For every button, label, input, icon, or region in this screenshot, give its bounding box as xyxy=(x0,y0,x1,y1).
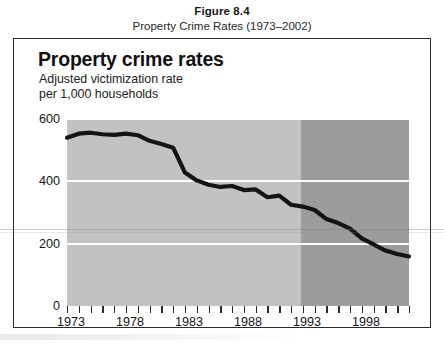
x-tick-label-1973: 1973 xyxy=(49,315,93,329)
series-line-chart xyxy=(67,119,409,306)
y-tick-label-0: 0 xyxy=(14,300,60,312)
x-tick-1985 xyxy=(209,306,210,313)
x-tick-1994 xyxy=(315,306,316,313)
x-tick-1982 xyxy=(173,306,174,313)
x-tick-2000 xyxy=(385,306,386,313)
x-tick-1980 xyxy=(150,306,151,313)
x-tick-1974 xyxy=(79,306,80,313)
x-tick-label-1983: 1983 xyxy=(167,315,211,329)
chart-subtitle: Adjusted victimization rate per 1,000 ho… xyxy=(39,72,183,101)
x-tick-1995 xyxy=(326,306,327,313)
x-tick-1986 xyxy=(220,306,221,313)
x-tick-1990 xyxy=(267,306,268,313)
x-tick-label-1998: 1998 xyxy=(344,315,388,329)
y-tick-label-200: 200 xyxy=(14,238,60,250)
y-tick-label-400: 400 xyxy=(14,175,60,187)
figure-number: Figure 8.4 xyxy=(0,4,444,19)
x-tick-label-1988: 1988 xyxy=(226,315,270,329)
x-tick-1999 xyxy=(374,306,375,313)
x-tick-1976 xyxy=(102,306,103,313)
chart-frame: Property crime rates Adjusted victimizat… xyxy=(13,38,431,328)
x-axis-ticks xyxy=(67,306,409,313)
chart-title: Property crime rates xyxy=(38,48,224,71)
x-tick-1993 xyxy=(303,306,304,313)
x-tick-1998 xyxy=(362,306,363,313)
x-tick-1977 xyxy=(114,306,115,313)
x-tick-1983 xyxy=(185,306,186,313)
x-tick-1979 xyxy=(138,306,139,313)
x-tick-1984 xyxy=(197,306,198,313)
y-tick-label-600: 600 xyxy=(14,113,60,125)
x-tick-2001 xyxy=(397,306,398,313)
x-tick-1991 xyxy=(279,306,280,313)
x-tick-1975 xyxy=(91,306,92,313)
x-tick-1992 xyxy=(291,306,292,313)
figure-caption: Figure 8.4 Property Crime Rates (1973–20… xyxy=(0,4,444,34)
x-tick-label-1978: 1978 xyxy=(108,315,152,329)
x-tick-1997 xyxy=(350,306,351,313)
page-smudge xyxy=(0,334,300,340)
x-tick-1988 xyxy=(244,306,245,313)
series-path-property-crime-rate xyxy=(67,133,409,257)
plot-area xyxy=(67,119,409,306)
x-tick-1973 xyxy=(67,306,68,313)
x-tick-1981 xyxy=(161,306,162,313)
x-tick-2002 xyxy=(409,306,410,313)
x-tick-1996 xyxy=(338,306,339,313)
x-tick-1989 xyxy=(256,306,257,313)
x-tick-label-1993: 1993 xyxy=(285,315,329,329)
x-tick-1978 xyxy=(126,306,127,313)
x-tick-1987 xyxy=(232,306,233,313)
figure-caption-text: Property Crime Rates (1973–2002) xyxy=(0,19,444,34)
